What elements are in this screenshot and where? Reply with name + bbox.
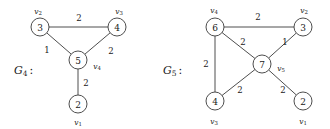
edge-weight-label: 1 <box>44 45 49 55</box>
graph-node-value: 4 <box>212 97 218 107</box>
vertex-name-label: v5 <box>277 64 285 74</box>
edge-weight-label: 2 <box>76 13 81 23</box>
graph-node-value: 4 <box>114 23 120 33</box>
graph-node-value: 3 <box>37 23 43 33</box>
graph-node-value: 2 <box>300 97 306 107</box>
vertex-name-label: v4 <box>93 62 101 72</box>
graph-caption-colon: : <box>179 64 183 77</box>
vertex-name-label: v3 <box>115 7 123 17</box>
vertex-name-label: v2 <box>34 7 42 17</box>
vertex-name-subscript: 3 <box>214 120 218 126</box>
graph-edge <box>222 33 255 59</box>
graph-node-value: 7 <box>259 60 265 70</box>
vertex-name-subscript: 2 <box>304 9 307 15</box>
edge-weight-label: 2 <box>108 46 113 56</box>
vertex-name-subscript: 4 <box>97 65 101 71</box>
graph-edge <box>47 33 71 54</box>
graph-node-value: 2 <box>75 100 81 110</box>
graph-caption-base: G <box>163 64 172 77</box>
vertex-name-label: v1 <box>74 118 82 128</box>
graph-caption-colon: : <box>30 64 34 77</box>
vertex-name-subscript: 3 <box>119 10 123 16</box>
vertex-name-subscript: 4 <box>214 9 218 15</box>
graph-node-value: 6 <box>212 23 218 33</box>
edge-weight-label: 2 <box>237 85 242 95</box>
vertex-name-subscript: 2 <box>38 10 41 16</box>
graph-node-value: 3 <box>300 23 306 33</box>
vertex-name-label: v3 <box>210 117 218 127</box>
graph-svg-canvas: 345263742 2122222122 v2v3v4v1v4v2v5v3v1 … <box>0 0 330 129</box>
vertex-name-label: v1 <box>299 117 307 127</box>
edge-weight-label: 2 <box>240 37 245 47</box>
vertex-name-label: v2 <box>300 6 308 16</box>
edge-weight-label: 1 <box>282 37 287 47</box>
graph-caption: G5: <box>163 64 182 78</box>
vertex-name-label: v4 <box>210 6 218 16</box>
edge-weight-label: 2 <box>83 78 88 88</box>
graph-caption-base: G <box>14 64 23 77</box>
graph-caption-subscript: 4 <box>23 69 28 78</box>
vertex-name-subscript: 1 <box>78 121 81 127</box>
edge-weight-label: 2 <box>280 85 285 95</box>
edge-weight-label: 2 <box>203 59 208 69</box>
vertex-name-subscript: 1 <box>303 120 306 126</box>
graph-node-value: 5 <box>75 56 81 66</box>
graph-caption: G4: <box>14 64 33 78</box>
edge-weight-label: 2 <box>255 12 260 22</box>
weighted-graphs-figure: 345263742 2122222122 v2v3v4v1v4v2v5v3v1 … <box>0 0 330 129</box>
graph-edge <box>85 33 110 54</box>
graph-caption-subscript: 5 <box>172 69 177 78</box>
vertex-name-subscript: 5 <box>281 67 285 73</box>
